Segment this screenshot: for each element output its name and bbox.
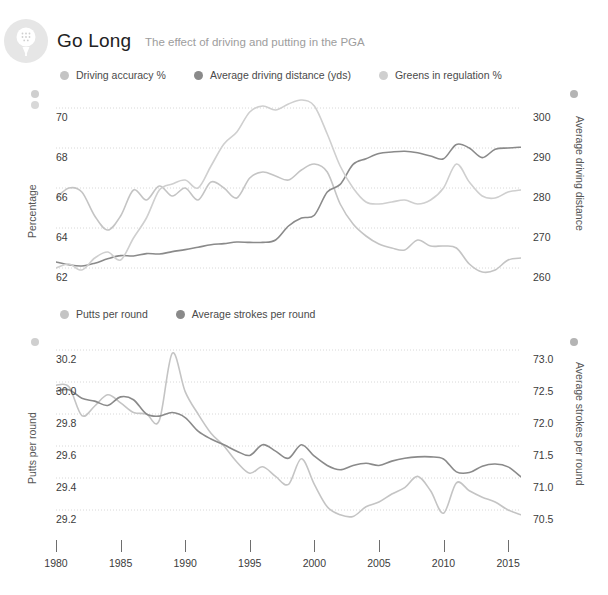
x-tick-label: 2000 [303, 557, 326, 569]
left-axis-marker-accuracy [31, 90, 39, 98]
legend-label: Driving accuracy % [76, 69, 166, 81]
chart-page: Go Long The effect of driving and puttin… [0, 0, 608, 595]
x-tick-mark [56, 540, 57, 552]
legend-label: Average strokes per round [192, 308, 316, 320]
chart-canvas [56, 334, 521, 534]
y-tick-label-right: 280 [533, 191, 551, 203]
legend-item-bottom-0[interactable]: Putts per round [60, 308, 148, 320]
x-tick-label: 2010 [432, 557, 455, 569]
legend-dot-icon [60, 310, 69, 319]
left-axis-marker-putts [31, 338, 39, 346]
page-header: Go Long The effect of driving and puttin… [0, 0, 608, 62]
x-tick-mark [444, 540, 445, 552]
plot-area-driving [56, 88, 521, 288]
legend-dot-icon [176, 310, 185, 319]
series-line-greens-in-regulation [56, 100, 521, 270]
y-tick-label-right: 72.0 [533, 417, 553, 429]
right-axis-title-strokes: Average strokes per round [574, 362, 586, 486]
page-title: Go Long [57, 30, 131, 52]
y-tick-label-right: 270 [533, 231, 551, 243]
y-tick-label-left: 29.6 [56, 449, 76, 461]
left-axis-marker-greens [31, 101, 39, 109]
legend-label: Greens in regulation % [395, 69, 502, 81]
y-tick-label-left: 30.2 [56, 353, 76, 365]
left-axis-title-putts: Putts per round [26, 412, 38, 484]
y-tick-label-right: 70.5 [533, 513, 553, 525]
right-axis-marker-strokes [570, 338, 578, 346]
golf-ball-on-tee-icon [4, 19, 48, 63]
x-tick-mark [314, 540, 315, 552]
page-subtitle: The effect of driving and putting in the… [145, 36, 365, 48]
x-tick-label: 1995 [238, 557, 261, 569]
x-tick-label: 1990 [173, 557, 196, 569]
legend-label: Putts per round [76, 308, 148, 320]
right-axis-title-distance: Average driving distance [574, 116, 586, 231]
y-tick-label-left: 64 [56, 231, 68, 243]
x-tick-mark [250, 540, 251, 552]
x-tick-label: 1980 [44, 557, 67, 569]
y-tick-label-right: 73.0 [533, 353, 553, 365]
chart-driving: Percentage Average driving distance 7068… [0, 88, 608, 288]
plot-area-putting [56, 334, 521, 534]
chart-putting: Putts per round Average strokes per roun… [0, 334, 608, 534]
series-line-average-strokes-per-round [56, 389, 521, 476]
legend-bottom-chart: Putts per roundAverage strokes per round [60, 308, 343, 320]
y-tick-label-left: 29.2 [56, 513, 76, 525]
x-tick-mark [121, 540, 122, 552]
x-tick-mark [379, 540, 380, 552]
y-tick-label-right: 290 [533, 151, 551, 163]
y-tick-label-right: 71.0 [533, 481, 553, 493]
legend-item-bottom-1[interactable]: Average strokes per round [176, 308, 316, 320]
series-line-putts-per-round [56, 353, 521, 517]
x-axis: 19801985199019952000200520102015 [0, 540, 608, 580]
legend-item-top-1[interactable]: Average driving distance (yds) [194, 69, 351, 81]
right-axis-marker-distance [570, 90, 578, 98]
y-tick-label-left: 30.0 [56, 385, 76, 397]
y-tick-label-right: 72.5 [533, 385, 553, 397]
y-tick-label-left: 66 [56, 191, 68, 203]
y-tick-label-left: 68 [56, 151, 68, 163]
y-tick-label-left: 29.4 [56, 481, 76, 493]
y-tick-label-right: 300 [533, 111, 551, 123]
chart-canvas [56, 88, 521, 288]
legend-item-top-0[interactable]: Driving accuracy % [60, 69, 166, 81]
legend-top-chart: Driving accuracy %Average driving distan… [60, 69, 530, 81]
x-tick-mark [185, 540, 186, 552]
x-tick-label: 2005 [367, 557, 390, 569]
x-tick-label: 1985 [109, 557, 132, 569]
x-tick-label: 2015 [496, 557, 519, 569]
legend-dot-icon [379, 71, 388, 80]
y-tick-label-left: 70 [56, 111, 68, 123]
legend-label: Average driving distance (yds) [210, 69, 351, 81]
legend-dot-icon [194, 71, 203, 80]
y-tick-label-right: 71.5 [533, 449, 553, 461]
legend-item-top-2[interactable]: Greens in regulation % [379, 69, 502, 81]
x-tick-mark [508, 540, 509, 552]
y-tick-label-left: 29.8 [56, 417, 76, 429]
y-tick-label-right: 260 [533, 271, 551, 283]
left-axis-title-percentage: Percentage [26, 184, 38, 238]
legend-dot-icon [60, 71, 69, 80]
y-tick-label-left: 62 [56, 271, 68, 283]
